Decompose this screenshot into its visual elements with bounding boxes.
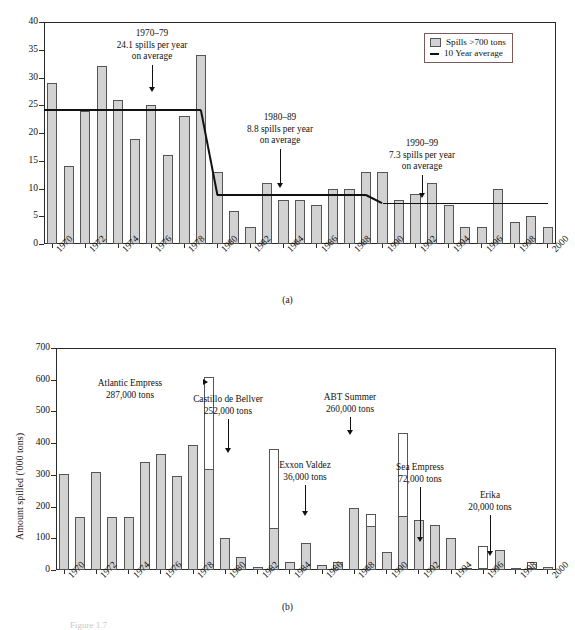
bar (446, 538, 456, 570)
annotation-arrow-shaft (280, 149, 281, 184)
figure-caption: Figure 1.7 (70, 620, 107, 630)
x-tick-mark (96, 570, 97, 574)
y-tick-label: 700 (14, 343, 50, 353)
annotation-line: 8.8 spills per year (205, 124, 355, 136)
bar (510, 222, 520, 244)
bar (140, 462, 150, 570)
y-axis-title-b: Amount spilled ('000 tons) (14, 433, 25, 540)
bar (172, 476, 182, 570)
bar (414, 520, 424, 570)
annotation-arrow-head-icon (417, 537, 423, 542)
bar (311, 205, 321, 244)
bar (163, 155, 173, 244)
y-tick-label: 15 (2, 156, 38, 166)
annotation-arrow-head-icon (149, 87, 155, 92)
y-tick-mark (39, 50, 44, 51)
x-tick-mark (514, 244, 515, 248)
x-tick-mark (451, 570, 452, 574)
annotation-line: 7.3 spills per year (352, 150, 492, 162)
x-tick-mark (515, 570, 516, 574)
y-tick-label: 400 (14, 438, 50, 448)
y-tick-mark (51, 475, 56, 476)
legend-label-spills: Spills >700 tons (446, 37, 506, 48)
x-tick-mark (481, 244, 482, 248)
annotation-arrow-head-icon (487, 551, 493, 556)
x-tick-mark (151, 244, 152, 248)
panel-a-caption: (a) (0, 295, 575, 305)
x-tick-mark (349, 244, 350, 248)
annotation-line: 1970–79 (77, 28, 227, 40)
x-tick-mark (316, 244, 317, 248)
annotation-line: on average (352, 161, 492, 173)
annotation-text: Exxon Valdez36,000 tons (250, 460, 360, 483)
bar (245, 227, 255, 244)
y-tick-label: 35 (2, 45, 38, 55)
x-tick-mark (217, 244, 218, 248)
bar (113, 100, 123, 244)
annotation-arrow-head-icon (225, 448, 231, 453)
x-tick-mark (184, 244, 185, 248)
bar (278, 200, 288, 244)
legend-swatch-box-icon (430, 38, 441, 47)
legend-entry-spills: Spills >700 tons (430, 37, 506, 48)
bar (64, 166, 74, 244)
annotation-line: 36,000 tons (250, 472, 360, 484)
chart-panel-a: Spills >700 tons 10 Year average (a) 051… (0, 0, 575, 315)
annotation-arrow-shaft (305, 485, 306, 512)
x-tick-mark (160, 570, 161, 574)
annotation-line: on average (77, 51, 227, 63)
average-line-segment (383, 203, 548, 205)
bar (410, 194, 420, 244)
bar (361, 172, 371, 244)
average-line-segment (217, 194, 366, 196)
y-tick-mark (39, 133, 44, 134)
annotation-line: Exxon Valdez (250, 460, 360, 472)
annotation-line: 252,000 tons (158, 406, 298, 418)
x-tick-mark (250, 244, 251, 248)
bar (59, 474, 69, 570)
bar (196, 55, 206, 244)
legend-a: Spills >700 tons 10 Year average (424, 33, 513, 63)
x-tick-mark (483, 570, 484, 574)
x-tick-mark (448, 244, 449, 248)
annotation-line: 1990–99 (352, 138, 492, 150)
y-tick-mark (39, 244, 44, 245)
x-tick-mark (225, 570, 226, 574)
y-tick-mark (51, 348, 56, 349)
bar (124, 517, 134, 570)
bar (47, 83, 57, 244)
y-tick-mark (51, 411, 56, 412)
annotation-line: Sea Empress (365, 462, 475, 474)
annotation-arrow-head-icon (203, 379, 208, 385)
bar (344, 189, 354, 245)
x-tick-mark (257, 570, 258, 574)
y-tick-mark (39, 78, 44, 79)
annotation-line: 260,000 tons (290, 404, 410, 416)
annotation-arrow-head-icon (277, 183, 283, 188)
bar (156, 454, 166, 570)
x-tick-mark (193, 570, 194, 574)
legend-entry-average: 10 Year average (430, 48, 506, 59)
annotation-line: Castillo de Bellver (158, 394, 298, 406)
panel-b-caption: (b) (0, 602, 575, 612)
annotation-line: on average (205, 135, 355, 147)
legend-label-average: 10 Year average (444, 48, 503, 59)
x-tick-mark (283, 244, 284, 248)
bar-lower-segment (479, 568, 487, 569)
y-tick-label: 30 (2, 73, 38, 83)
annotation-arrow-shaft (228, 419, 229, 449)
annotation-line: 24.1 spills per year (77, 40, 227, 52)
bar (543, 227, 553, 244)
x-tick-mark (382, 244, 383, 248)
x-tick-mark (547, 244, 548, 248)
annotation-text: Castillo de Bellver252,000 tons (158, 394, 298, 417)
chart-panel-b: Amount spilled ('000 tons) (b) 010020030… (0, 330, 575, 629)
y-tick-mark (39, 105, 44, 106)
bar (179, 116, 189, 244)
y-tick-mark (51, 538, 56, 539)
y-tick-label: 600 (14, 375, 50, 385)
annotation-text: 1980–898.8 spills per yearon average (205, 112, 355, 147)
annotation-text: Sea Empress72,000 tons (365, 462, 475, 485)
y-tick-mark (51, 570, 56, 571)
